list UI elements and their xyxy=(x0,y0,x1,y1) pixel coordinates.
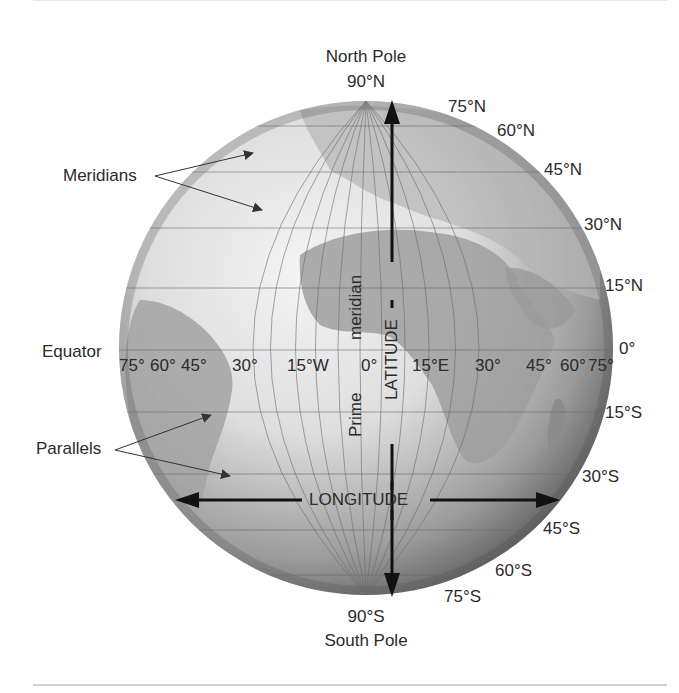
lat-label-75s: 75°S xyxy=(444,588,481,606)
lat-label-45n: 45°N xyxy=(544,161,582,179)
lon-label-0: 0° xyxy=(361,357,377,375)
lat-label-30n: 30°N xyxy=(584,216,622,234)
south-pole-label: South Pole xyxy=(324,632,407,650)
lat-label-30s: 30°S xyxy=(582,468,619,486)
equator-callout: Equator xyxy=(42,343,102,361)
lon-label-45w: 45° xyxy=(181,357,207,375)
lon-label-45e: 45° xyxy=(526,357,552,375)
longitude-axis-label: LONGITUDE xyxy=(309,491,408,509)
lat-label-60n: 60°N xyxy=(497,122,535,140)
lon-label-60e: 60° xyxy=(560,357,586,375)
meridians-callout: Meridians xyxy=(63,167,137,185)
lat-label-equator: 0° xyxy=(619,340,635,358)
lon-label-60w: 60° xyxy=(150,357,176,375)
north-pole-label: North Pole xyxy=(326,48,406,66)
prime-label: Prime xyxy=(347,393,365,437)
lon-label-15e: 15°E xyxy=(412,357,449,375)
lat-label-75n: 75°N xyxy=(448,98,486,116)
lon-label-30e: 30° xyxy=(475,357,501,375)
lon-label-15w: 15°W xyxy=(287,357,329,375)
parallels-callout: Parallels xyxy=(36,440,101,458)
lon-label-75w: 75° xyxy=(119,357,145,375)
north-pole-latitude: 90°N xyxy=(347,73,385,91)
meridian-label: meridian xyxy=(347,275,365,340)
lat-label-15n: 15°N xyxy=(605,277,643,295)
latitude-axis-label: LATITUDE xyxy=(383,319,401,400)
lat-label-45s: 45°S xyxy=(543,520,580,538)
south-pole-latitude: 90°S xyxy=(347,608,384,626)
bottom-rule xyxy=(33,684,667,686)
lon-label-75e: 75° xyxy=(588,357,614,375)
lat-label-15s: 15°S xyxy=(605,404,642,422)
lon-label-30w: 30° xyxy=(232,357,258,375)
lat-label-60s: 60°S xyxy=(495,562,532,580)
